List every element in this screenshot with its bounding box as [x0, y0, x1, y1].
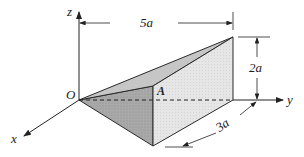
dim-3a-line-up: [240, 102, 256, 115]
x-axis: [24, 100, 79, 136]
dim-3a-line-down: [183, 133, 216, 146]
origin-label: O: [66, 87, 76, 102]
dim-height-label: 2a: [249, 60, 263, 75]
vertex-a-label: A: [156, 84, 165, 98]
z-axis-label: z: [66, 4, 72, 19]
wedge-diagram: z x y O A 5a 2a 3a: [0, 0, 304, 157]
x-axis-label: x: [10, 131, 17, 146]
dim-length-label: 5a: [140, 15, 154, 30]
y-axis-label: y: [285, 92, 293, 107]
dim-depth-label: 3a: [212, 115, 232, 136]
